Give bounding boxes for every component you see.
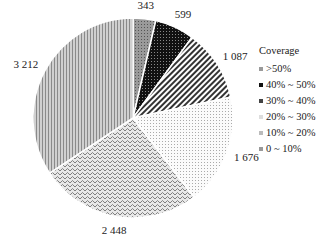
legend-title: Coverage	[259, 45, 315, 56]
legend-swatch-icon	[259, 131, 263, 135]
legend-item: 40% ~ 50%	[259, 77, 315, 93]
slice-value-label: 1 087	[223, 50, 248, 62]
legend-item: 30% ~ 40%	[259, 93, 315, 109]
slice-value-label: 343	[138, 0, 155, 11]
legend-swatch-icon	[259, 115, 263, 119]
legend-swatch-icon	[259, 67, 263, 71]
legend-swatch-icon	[259, 147, 263, 151]
slice-value-label: 2 448	[102, 224, 127, 236]
slice-value-label: 3 212	[14, 58, 39, 70]
legend-swatch-icon	[259, 99, 263, 103]
slice-value-label: 599	[175, 8, 192, 20]
slice-value-label: 1 676	[234, 151, 259, 163]
legend-item: 20% ~ 30%	[259, 109, 315, 125]
legend-swatch-icon	[259, 83, 263, 87]
legend-item: >50%	[259, 61, 315, 77]
legend-item: 10% ~ 20%	[259, 125, 315, 141]
chart-legend: Coverage >50% 40% ~ 50% 30% ~ 40% 20% ~ …	[259, 45, 315, 157]
legend-item: 0 ~ 10%	[259, 141, 315, 157]
